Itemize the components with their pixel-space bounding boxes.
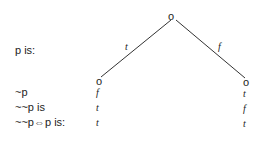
right-value-biconditional: t — [243, 118, 246, 129]
left-node: o — [96, 75, 102, 87]
left-value-biconditional: t — [96, 117, 99, 128]
right-value-not-p: t — [243, 88, 246, 99]
right-value-not-not-p: f — [243, 103, 246, 114]
left-edge-label: t — [125, 41, 128, 52]
right-edge-label: f — [218, 41, 221, 52]
left-value-not-p: f — [96, 87, 99, 98]
right-node: o — [243, 76, 249, 88]
root-node: o — [168, 10, 174, 22]
row-label-not-p: ~p — [15, 86, 28, 98]
row-label-not-not-p: ~~p is — [15, 101, 45, 113]
row-label-biconditional: ~~p⇔p is: — [15, 116, 65, 128]
row-label-p: p is: — [15, 44, 35, 56]
left-value-not-not-p: t — [96, 102, 99, 113]
